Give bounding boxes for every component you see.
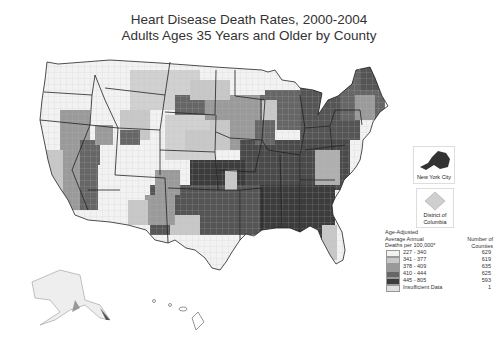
legend-row: 341 - 377 619 [385,256,497,263]
legend-swatch [386,285,400,293]
nyc-shape-icon [414,147,454,175]
nyc-inset: New York City [413,146,455,184]
legend-row: 227 - 340 629 [385,249,497,256]
map-legend: Age-Adjusted Average Annual Deaths per 1… [385,229,497,291]
legend-count: 635 [482,263,491,270]
dc-label-line2: Columbia [417,219,453,225]
dc-inset: District of Columbia [416,188,454,228]
legend-row: 410 - 444 625 [385,270,497,277]
alaska [32,270,110,325]
legend-count: 629 [482,249,491,256]
legend-count: 625 [482,270,491,277]
legend-count-header: Number of Counties [467,236,493,249]
legend-range: 227 - 340 [403,249,426,256]
nyc-label: New York City [414,174,454,180]
legend-row: Insufficient Data 1 [385,284,497,291]
legend-range: 410 - 444 [403,270,426,277]
legend-count: 619 [482,256,491,263]
legend-count: 1 [488,284,491,291]
hawaii [153,300,205,331]
legend-range: Insufficient Data [403,284,442,291]
legend-row: 445 - 805 593 [385,277,497,284]
legend-range: 378 - 409 [403,263,426,270]
legend-count: 593 [482,277,491,284]
legend-row: 378 - 409 635 [385,263,497,270]
legend-range: 341 - 377 [403,256,426,263]
dc-label-line1: District of [417,212,453,218]
legend-range: 445 - 805 [403,277,426,284]
dc-shape-icon [417,189,453,213]
